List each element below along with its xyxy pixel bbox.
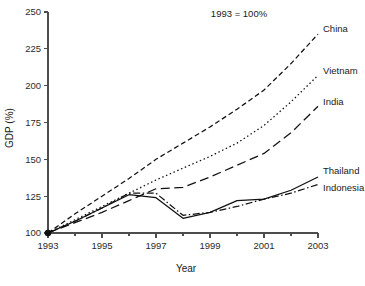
y-tick-label: 200 (25, 80, 41, 91)
y-tick-label: 150 (25, 154, 41, 165)
series-lines (48, 34, 318, 233)
chart-canvas: 100125150175200225250 199319951997199920… (0, 0, 365, 286)
series-label-india: India (323, 96, 344, 107)
x-axis-title: Year (176, 263, 197, 274)
series-label-vietnam: Vietnam (323, 65, 358, 76)
y-tick-label: 125 (25, 191, 41, 202)
series-label-thailand: Thailand (323, 165, 359, 176)
origin-marker-dot (45, 230, 52, 237)
series-line-indonesia (48, 184, 318, 233)
series-line-china (48, 34, 318, 233)
y-tick-label: 175 (25, 117, 41, 128)
series-line-vietnam (48, 75, 318, 233)
series-labels: ChinaVietnamIndiaThailandIndonesia (323, 23, 365, 193)
x-tick-label: 1999 (199, 240, 220, 251)
y-tick-label: 250 (25, 6, 41, 17)
x-tick-label: 2003 (307, 240, 328, 251)
y-tick-label: 100 (25, 227, 41, 238)
x-tick-label: 1997 (145, 240, 166, 251)
x-tick-label: 1993 (37, 240, 58, 251)
gdp-index-line-chart: 100125150175200225250 199319951997199920… (0, 0, 365, 286)
x-axis: 199319951997199920012003 (37, 233, 328, 251)
y-tick-label: 225 (25, 43, 41, 54)
x-tick-label: 2001 (253, 240, 274, 251)
y-axis: 100125150175200225250 (25, 6, 48, 238)
base-year-annotation: 1993 = 100% (211, 8, 268, 19)
y-axis-title: GDP (%) (4, 108, 15, 148)
series-label-china: China (323, 23, 349, 34)
series-label-indonesia: Indonesia (323, 182, 365, 193)
x-tick-label: 1995 (91, 240, 112, 251)
